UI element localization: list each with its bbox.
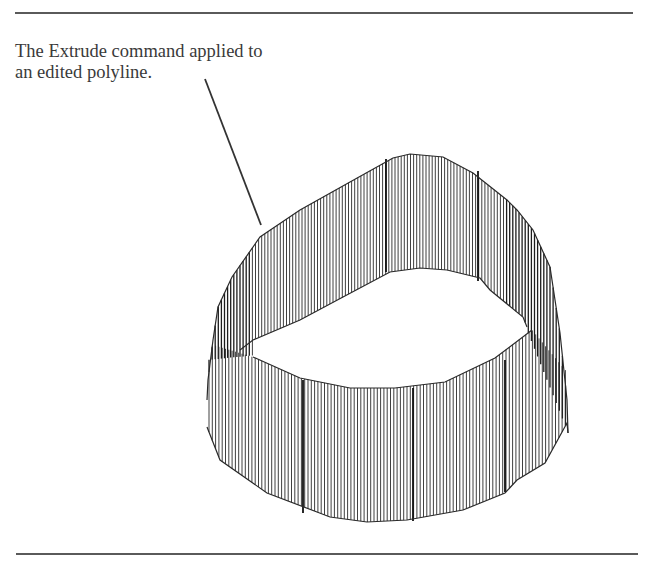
extruded-polyline-figure bbox=[0, 0, 651, 565]
wireframe-hatching bbox=[209, 154, 566, 522]
leader-line bbox=[205, 79, 261, 225]
bottom-rule bbox=[16, 553, 638, 555]
